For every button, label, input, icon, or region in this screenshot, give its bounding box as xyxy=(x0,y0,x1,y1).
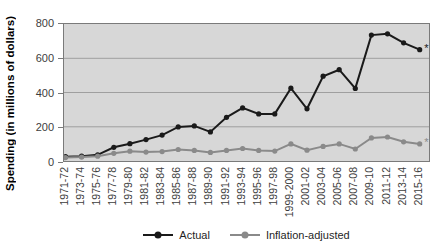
legend: Actual Inflation-adjusted xyxy=(63,229,430,241)
spending-line-chart: Spending (in millions of dollars) ** 020… xyxy=(0,0,442,251)
legend-item-inflation-adjusted: Inflation-adjusted xyxy=(230,229,350,241)
data-point xyxy=(176,124,181,129)
x-tick-label-1999-2000: 1999-2000 xyxy=(283,167,296,217)
y-tick-mark xyxy=(58,162,63,163)
data-point xyxy=(95,154,100,159)
data-point xyxy=(208,150,213,155)
data-point xyxy=(417,141,422,146)
x-tick-label-2015-16: 2015-16 xyxy=(412,167,425,206)
data-point xyxy=(256,111,261,116)
y-tick-label-200: 200 xyxy=(14,121,54,133)
y-tick-label-0: 0 xyxy=(14,156,54,168)
x-tick-label-2005-06: 2005-06 xyxy=(331,167,344,206)
data-point xyxy=(337,141,342,146)
data-point xyxy=(224,148,229,153)
y-tick-label-400: 400 xyxy=(14,87,54,99)
x-tick-label-1985-86: 1985-86 xyxy=(170,167,183,206)
data-point xyxy=(321,74,326,79)
data-point xyxy=(272,149,277,154)
y-tick-mark xyxy=(58,23,63,24)
legend-label-actual: Actual xyxy=(179,229,210,241)
data-point xyxy=(111,151,116,156)
x-tick-label-1981-82: 1981-82 xyxy=(138,167,151,206)
data-point xyxy=(143,150,148,155)
data-point xyxy=(337,67,342,72)
data-point xyxy=(417,47,422,52)
x-tick-label-1977-78: 1977-78 xyxy=(106,167,119,206)
data-point xyxy=(369,135,374,140)
data-point xyxy=(401,40,406,45)
data-point xyxy=(385,134,390,139)
x-tick-label-1983-84: 1983-84 xyxy=(154,167,167,206)
data-point xyxy=(192,123,197,128)
end-annotation: * xyxy=(424,136,429,148)
data-point xyxy=(208,129,213,134)
data-point xyxy=(304,148,309,153)
data-point xyxy=(240,146,245,151)
y-tick-label-800: 800 xyxy=(14,17,54,29)
x-tick-label-1995-96: 1995-96 xyxy=(251,167,264,206)
x-tick-label-2011-12: 2011-12 xyxy=(380,167,393,205)
data-point xyxy=(353,146,358,151)
data-point xyxy=(401,139,406,144)
data-point xyxy=(369,33,374,38)
chart-canvas: ** xyxy=(64,24,429,161)
y-axis-title: Spending (in millions of dollars) xyxy=(4,8,16,198)
x-tick-label-1987-88: 1987-88 xyxy=(186,167,199,206)
data-point xyxy=(288,141,293,146)
data-point xyxy=(192,148,197,153)
data-point xyxy=(127,149,132,154)
x-tick-label-2013-14: 2013-14 xyxy=(396,167,409,206)
x-tick-label-1975-76: 1975-76 xyxy=(90,167,103,206)
data-point xyxy=(321,144,326,149)
data-point xyxy=(79,155,84,160)
x-tick-label-1973-74: 1973-74 xyxy=(74,167,87,206)
data-point xyxy=(385,31,390,36)
data-point xyxy=(256,148,261,153)
x-tick-label-1993-94: 1993-94 xyxy=(235,167,248,206)
dot-icon xyxy=(241,232,248,239)
x-tick-label-2001-02: 2001-02 xyxy=(299,167,312,206)
data-point xyxy=(224,115,229,120)
data-point xyxy=(240,105,245,110)
y-tick-mark xyxy=(58,93,63,94)
y-tick-mark xyxy=(58,127,63,128)
data-point xyxy=(288,86,293,91)
data-point xyxy=(304,106,309,111)
x-tick-label-2003-04: 2003-04 xyxy=(315,167,328,206)
x-tick-label-2009-10: 2009-10 xyxy=(363,167,376,206)
x-tick-label-1971-72: 1971-72 xyxy=(58,167,71,206)
line-marker-icon xyxy=(143,234,173,236)
data-point xyxy=(272,111,277,116)
legend-item-actual: Actual xyxy=(143,229,210,241)
series-line-actual xyxy=(66,34,420,157)
data-point xyxy=(353,86,358,91)
x-tick-label-2007-08: 2007-08 xyxy=(347,167,360,206)
x-tick-label-1991-92: 1991-92 xyxy=(219,167,232,206)
data-point xyxy=(160,133,165,138)
dot-icon xyxy=(155,232,162,239)
y-tick-mark xyxy=(58,58,63,59)
data-point xyxy=(176,147,181,152)
data-point xyxy=(160,149,165,154)
line-marker-icon xyxy=(230,234,260,236)
plot-area: ** xyxy=(63,23,430,162)
x-tick-label-1979-80: 1979-80 xyxy=(122,167,135,206)
x-tick-label-1989-90: 1989-90 xyxy=(202,167,215,206)
data-point xyxy=(111,145,116,150)
legend-label-inflation-adjusted: Inflation-adjusted xyxy=(266,229,350,241)
data-point xyxy=(127,141,132,146)
x-tick-label-1997-98: 1997-98 xyxy=(267,167,280,206)
data-point xyxy=(143,137,148,142)
end-annotation: * xyxy=(424,42,429,54)
y-tick-label-600: 600 xyxy=(14,52,54,64)
